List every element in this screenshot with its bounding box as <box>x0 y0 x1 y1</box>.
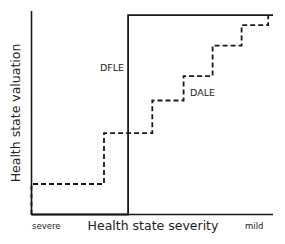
y-axis-title: Health state valuation <box>8 44 23 183</box>
dale-line <box>32 15 269 214</box>
dfle-label: DFLE <box>100 62 124 73</box>
dale-label: DALE <box>190 87 215 98</box>
x-tick-severe: severe <box>32 221 60 231</box>
x-tick-mild: mild <box>245 221 263 231</box>
x-axis-title: Health state severity <box>88 218 219 233</box>
step-chart: DFLE DALE Health state valuation Health … <box>0 0 285 244</box>
